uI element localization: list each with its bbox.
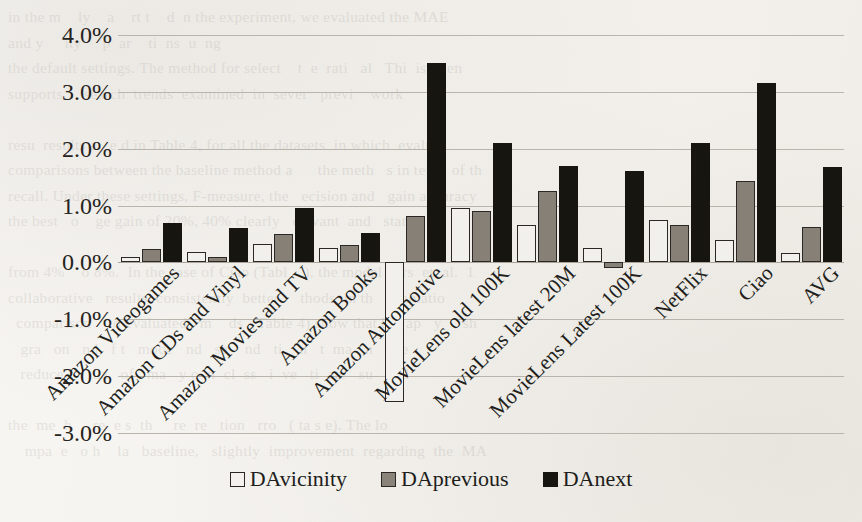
bar-danext <box>361 233 380 263</box>
bar-danext <box>625 171 644 262</box>
bar-danext <box>163 223 182 263</box>
gray-square-swatch <box>381 472 396 487</box>
legend-label: DAnext <box>563 466 633 492</box>
bar-daprevious <box>472 211 491 262</box>
bar-danext <box>427 63 446 262</box>
bar-davicinity <box>649 220 668 263</box>
bar-danext <box>493 143 512 262</box>
bar-danext <box>559 166 578 263</box>
bar-davicinity <box>451 208 470 262</box>
white-square-swatch <box>230 472 245 487</box>
bar-daprevious <box>406 216 425 263</box>
x-axis-tick-label: NetFlix <box>650 261 713 324</box>
bar-danext <box>691 143 710 262</box>
legend-label: DAvicinity <box>250 466 347 492</box>
bar-daprevious <box>736 181 755 262</box>
y-axis-tick-label: 3.0% <box>16 78 112 105</box>
bar-daprevious <box>802 227 821 262</box>
chart-legend: DAvicinityDApreviousDAnext <box>0 466 862 492</box>
legend-entry[interactable]: DAvicinity <box>230 466 347 492</box>
black-square-swatch <box>543 472 558 487</box>
y-axis-tick-label: 1.0% <box>16 192 112 219</box>
bar-daprevious <box>340 245 359 262</box>
y-axis-tick-label: 4.0% <box>16 22 112 49</box>
bar-daprevious <box>274 234 293 262</box>
bar-danext <box>295 208 314 262</box>
y-axis-tick-label: 0.0% <box>16 249 112 276</box>
x-axis-tick-label: AVG <box>797 261 845 309</box>
legend-entry[interactable]: DAnext <box>543 466 633 492</box>
bar-danext <box>229 228 248 262</box>
bar-daprevious <box>538 191 557 262</box>
legend-label: DAprevious <box>401 466 509 492</box>
y-axis-tick-label: 2.0% <box>16 135 112 162</box>
x-axis-tick-label: Ciao <box>733 261 779 307</box>
bar-davicinity <box>715 240 734 263</box>
bar-davicinity <box>253 244 272 263</box>
legend-entry[interactable]: DAprevious <box>381 466 509 492</box>
bar-danext <box>757 83 776 262</box>
x-axis: Amazon VideogamesAmazon CDs and VinylAma… <box>118 261 844 461</box>
bar-danext <box>823 167 842 262</box>
y-axis-tick-label: -3.0% <box>16 420 112 447</box>
bar-chart: 4.0%3.0%2.0%1.0%0.0%-1.0%-2.0%-3.0% Amaz… <box>0 0 862 522</box>
bar-daprevious <box>670 225 689 262</box>
bar-davicinity <box>517 225 536 262</box>
